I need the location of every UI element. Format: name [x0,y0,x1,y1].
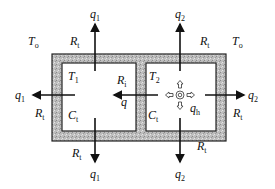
label-q2-top: q2 [175,7,185,23]
label-Rt-top-right: Rt [199,34,210,50]
label-Rt-right: Rt [232,106,243,122]
label-q2-right: q2 [248,88,258,104]
label-q1-bottom: q1 [90,167,100,183]
label-Rt-top-left: Rt [69,34,80,50]
building-walls [52,54,226,141]
label-To-left: To [28,34,39,50]
label-Rt-bottom-left: Rt [71,146,82,162]
label-q1-top: q1 [90,7,100,23]
label-q1-left: q1 [15,88,25,104]
label-Rt-left: Rt [34,106,45,122]
thermal-diagram: q1 q2 To To Rt Rt T1 Ri T2 q1 q q2 Rt Ct… [0,0,275,189]
label-q2-bottom: q2 [175,167,185,183]
label-q: q [121,95,127,109]
label-To-right: To [232,34,243,50]
